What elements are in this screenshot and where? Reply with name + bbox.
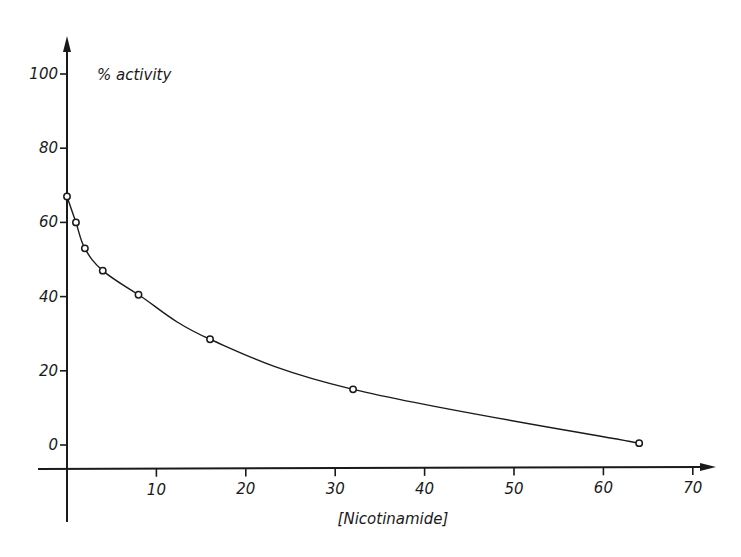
data-point-marker xyxy=(64,193,70,199)
y-tick-label: 60 xyxy=(39,213,58,231)
y-tick-label: 80 xyxy=(39,139,58,157)
y-tick-label: 20 xyxy=(39,362,58,380)
x-tick-label: 10 xyxy=(147,481,166,499)
x-tick-label: 50 xyxy=(504,480,523,498)
x-tick-label: 40 xyxy=(415,480,434,498)
x-axis-arrow-icon xyxy=(700,463,716,471)
data-point-marker xyxy=(207,336,213,342)
axes xyxy=(38,36,716,522)
data-point-marker xyxy=(135,292,141,298)
data-point-marker xyxy=(350,386,356,392)
x-axis-title: [Nicotinamide] xyxy=(338,510,449,528)
data-point-marker xyxy=(73,219,79,225)
x-tick-label: 20 xyxy=(236,480,255,498)
x-tick-label: 60 xyxy=(594,479,613,497)
x-axis-line xyxy=(38,467,705,469)
data-point-marker xyxy=(100,267,106,273)
y-axis-arrow-icon xyxy=(63,36,71,52)
y-tick-label: 100 xyxy=(29,65,58,83)
chart-container: 020406080100 10203040506070 % activity [… xyxy=(0,0,741,557)
y-axis-ticks: 020406080100 xyxy=(29,65,67,454)
data-point-marker xyxy=(636,440,642,446)
data-series xyxy=(64,193,643,446)
x-tick-label: 30 xyxy=(326,480,345,498)
data-point-marker xyxy=(82,245,88,251)
x-axis-ticks: 10203040506070 xyxy=(147,467,702,499)
series-line xyxy=(67,196,639,443)
y-tick-label: 40 xyxy=(39,288,58,306)
x-tick-label: 70 xyxy=(683,479,702,497)
y-axis-title: % activity xyxy=(97,66,172,84)
line-chart: 020406080100 10203040506070 % activity [… xyxy=(0,0,741,557)
y-tick-label: 0 xyxy=(48,436,58,454)
